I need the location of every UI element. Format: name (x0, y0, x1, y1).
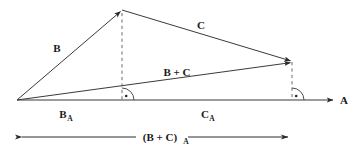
vector-c-line (122, 10, 291, 61)
vector-b-plus-c-label: B + C (163, 66, 190, 78)
vector-c-label: C (197, 19, 205, 31)
vector-b-line (17, 12, 121, 101)
vector-diagram-canvas: A B C B + C B A C A (B + C) A (0, 0, 361, 156)
projection-b-subscript: A (67, 114, 73, 123)
projection-c-label: C (201, 108, 209, 120)
right-angle-arc-c (292, 88, 304, 100)
axis-a-label: A (340, 94, 348, 106)
vector-b-plus-c-line (17, 63, 290, 100)
vector-b-label: B (53, 42, 61, 54)
vector-diagram-svg: A B C B + C B A C A (B + C) A (0, 0, 361, 156)
dimension-label-subscript: A (183, 137, 189, 146)
projection-c-subscript: A (209, 114, 215, 123)
projection-b-label: B (59, 108, 67, 120)
dimension-label: (B + C) (143, 131, 178, 144)
right-angle-dot-c (295, 95, 298, 98)
right-angle-dot-b (125, 95, 128, 98)
right-angle-arc-b (122, 88, 134, 100)
